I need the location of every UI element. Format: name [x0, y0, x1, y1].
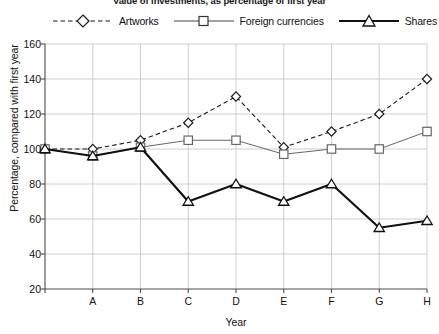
chart-figure: Value of investments, as percentage of f…: [0, 0, 439, 334]
legend-label-shares: Shares: [405, 15, 437, 27]
x-tick-label: E: [280, 295, 287, 307]
triangle-marker-thick-line-icon: [338, 13, 400, 29]
y-tick-label: 20: [29, 283, 41, 295]
chart-title: Value of investments, as percentage of f…: [0, 0, 439, 6]
gridlines: [45, 44, 427, 289]
legend-label-artworks: Artworks: [119, 15, 159, 27]
x-tick-label: A: [89, 295, 96, 307]
y-tick-label: 80: [29, 178, 41, 190]
y-tick-label: 140: [23, 73, 41, 85]
legend-label-foreign-currencies: Foreign currencies: [240, 15, 324, 27]
x-tick-label: B: [137, 295, 144, 307]
x-tick-label: C: [184, 295, 192, 307]
plot-svg: [45, 44, 427, 289]
x-tick-label: G: [375, 295, 383, 307]
plot-area: 20406080100120140160 ABCDEFGH: [45, 44, 427, 289]
y-tick-label: 60: [29, 213, 41, 225]
x-axis-title: Year: [45, 316, 427, 328]
legend-item-shares: Shares: [338, 12, 437, 30]
y-axis-title: Percentage, compared with first year: [8, 8, 20, 248]
diamond-marker-dashed-line-icon: [52, 13, 114, 29]
chart-legend: Artworks Foreign currencies Shares: [52, 12, 437, 30]
y-tick-label: 100: [23, 143, 41, 155]
legend-item-artworks: Artworks: [52, 12, 159, 30]
y-tick-label: 160: [23, 38, 41, 50]
legend-item-foreign-currencies: Foreign currencies: [173, 12, 324, 30]
square-marker-solid-line-icon: [173, 13, 235, 29]
x-tick-label: H: [423, 295, 431, 307]
axis-tickmarks: [41, 44, 427, 293]
y-tick-label: 120: [23, 108, 41, 120]
x-tick-label: F: [328, 295, 334, 307]
x-tick-label: D: [232, 295, 240, 307]
y-tick-label: 40: [29, 248, 41, 260]
